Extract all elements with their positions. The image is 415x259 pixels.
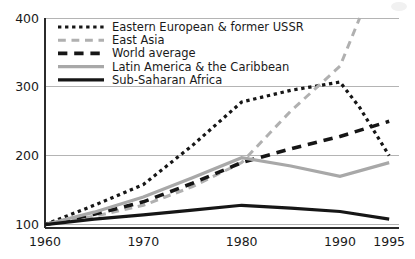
axis-lines xyxy=(45,18,399,228)
legend-item: World average xyxy=(58,46,196,60)
line-chart: 100200300400 19601970198019901995 Easter… xyxy=(0,0,415,259)
legend-label: World average xyxy=(112,46,196,60)
legend-item: Sub-Saharan Africa xyxy=(58,73,222,87)
x-tick-label: 1990 xyxy=(324,234,356,249)
x-tick-label: 1960 xyxy=(29,234,61,249)
x-tick-label: 1970 xyxy=(127,234,159,249)
y-tick-label: 400 xyxy=(15,11,39,26)
series-line-1 xyxy=(45,18,360,225)
legend-label: Eastern European & former USSR xyxy=(112,20,304,34)
legend-label: Latin America & the Caribbean xyxy=(112,60,289,74)
legend-label: Sub-Saharan Africa xyxy=(112,73,222,87)
legend-item: Eastern European & former USSR xyxy=(58,20,304,34)
chart-container: 100200300400 19601970198019901995 Easter… xyxy=(0,0,415,259)
legend-item: East Asia xyxy=(58,33,165,47)
x-tick-label: 1995 xyxy=(373,234,405,249)
y-tick-label: 300 xyxy=(15,79,39,94)
series-line-0 xyxy=(45,82,389,225)
x-axis-tick-labels: 19601970198019901995 xyxy=(29,234,405,249)
data-series-group xyxy=(45,18,389,225)
y-tick-label: 100 xyxy=(15,217,39,232)
y-axis-tick-labels: 100200300400 xyxy=(15,11,39,233)
chart-legend: Eastern European & former USSREast AsiaW… xyxy=(58,20,304,87)
legend-item: Latin America & the Caribbean xyxy=(58,60,289,74)
legend-label: East Asia xyxy=(112,33,165,47)
y-tick-label: 200 xyxy=(15,148,39,163)
corner-artifact xyxy=(391,2,407,11)
x-tick-label: 1980 xyxy=(226,234,258,249)
